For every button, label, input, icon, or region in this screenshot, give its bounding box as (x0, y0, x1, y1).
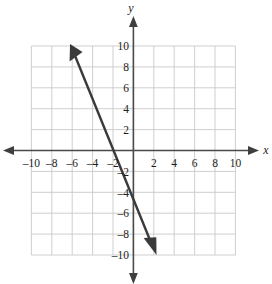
y-tick-label: 8 (123, 61, 129, 73)
x-axis-left-arrow (3, 146, 14, 155)
coordinate-plane-svg: –10 –8 –6 –4 –2 2 4 6 8 10 10 8 6 4 2 –2… (0, 0, 272, 284)
y-axis-bottom-arrow (129, 273, 138, 284)
x-axis-tick-labels: –10 –8 –6 –4 –2 2 4 6 8 10 (22, 157, 242, 169)
x-tick-label: 10 (230, 157, 242, 169)
y-axis-name: y (127, 1, 134, 15)
y-tick-label: –8 (117, 228, 130, 240)
x-axis (3, 146, 259, 155)
y-tick-label: –2 (117, 166, 130, 178)
x-axis-right-arrow (248, 146, 259, 155)
x-axis-name: x (262, 143, 269, 157)
x-tick-label: 8 (212, 157, 218, 169)
y-axis-top-arrow (129, 16, 138, 27)
x-tick-label: –10 (22, 157, 41, 169)
graph-figure: –10 –8 –6 –4 –2 2 4 6 8 10 10 8 6 4 2 –2… (0, 0, 272, 284)
x-tick-label: 6 (192, 157, 198, 169)
line-lower-arrowhead (144, 237, 157, 255)
x-tick-label: 4 (171, 157, 177, 169)
x-tick-label: –6 (65, 157, 78, 169)
x-tick-label: –8 (45, 157, 58, 169)
y-tick-label: –4 (117, 187, 130, 199)
y-tick-label: 10 (118, 40, 130, 52)
y-tick-label: –10 (111, 249, 130, 261)
y-tick-label: 2 (123, 124, 129, 136)
y-tick-label: 4 (123, 103, 129, 115)
x-tick-label: 2 (151, 157, 157, 169)
y-tick-label: 6 (123, 82, 129, 94)
x-tick-label: –4 (86, 157, 99, 169)
y-tick-label: –6 (117, 207, 130, 219)
